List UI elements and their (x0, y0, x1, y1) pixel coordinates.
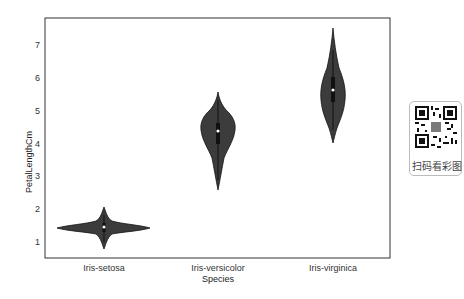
y-axis-label: PetalLengthCm (24, 131, 34, 193)
violin-versicolor (201, 92, 235, 190)
x-axis: Iris-setosa Iris-versicolor Iris-virgini… (83, 263, 357, 273)
y-tick-2: 2 (35, 204, 40, 214)
y-tick-7: 7 (35, 40, 40, 50)
y-tick-4: 4 (35, 139, 40, 149)
y-tick-6: 6 (35, 73, 40, 83)
qr-code-card[interactable]: 扫码看彩图 (409, 101, 462, 176)
violin-plot: 1 2 3 4 5 6 7 PetalLengthCm Iris-setosa … (0, 0, 464, 299)
y-tick-5: 5 (35, 106, 40, 116)
x-axis-label: Species (202, 274, 235, 284)
x-tick-versicolor: Iris-versicolor (191, 263, 245, 273)
y-tick-1: 1 (35, 237, 40, 247)
qr-scan-label: 扫码看彩图 (410, 158, 463, 173)
qr-code-icon (415, 106, 457, 148)
violin-virginica (321, 28, 346, 143)
x-tick-virginica: Iris-virginica (309, 263, 357, 273)
x-tick-setosa: Iris-setosa (83, 263, 125, 273)
violin-setosa (57, 207, 150, 249)
y-tick-3: 3 (35, 171, 40, 181)
y-axis: 1 2 3 4 5 6 7 (35, 40, 40, 247)
